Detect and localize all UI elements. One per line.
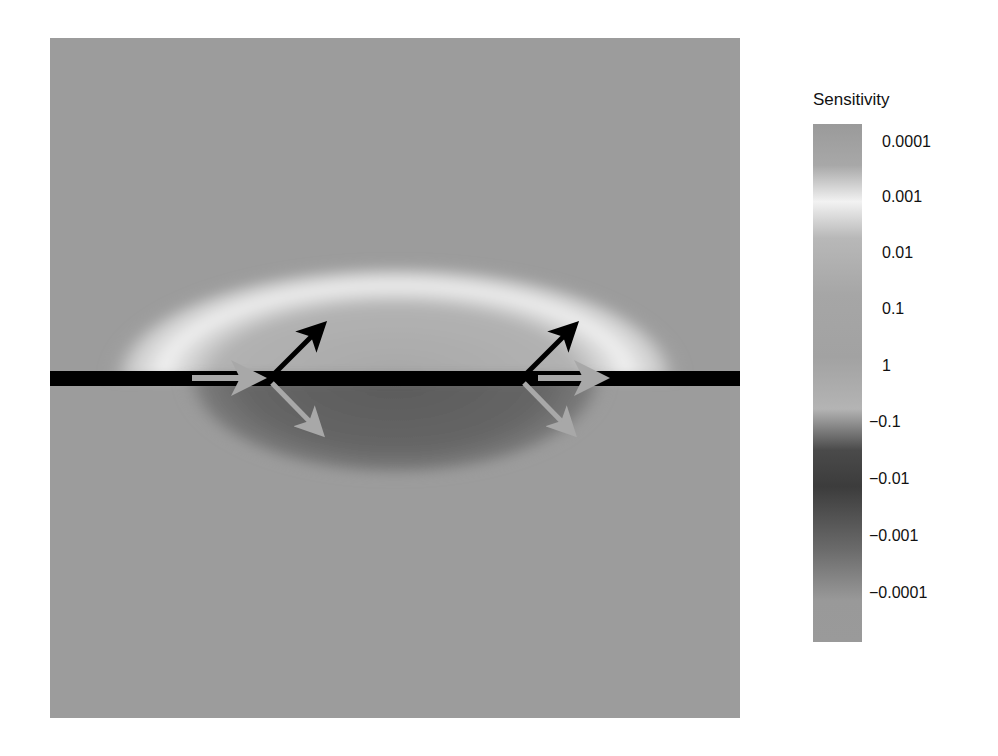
colorbar-tick: −0.01 bbox=[869, 470, 909, 488]
path-line bbox=[50, 371, 740, 386]
colorbar bbox=[813, 124, 862, 642]
sensitivity-heatmap bbox=[50, 38, 740, 718]
colorbar-tick: 0.01 bbox=[882, 244, 913, 262]
colorbar-tick: 1 bbox=[882, 357, 891, 375]
colorbar-tick: −0.0001 bbox=[869, 584, 927, 602]
colorbar-tick: −0.1 bbox=[869, 413, 901, 431]
colorbar-tick: −0.001 bbox=[869, 527, 918, 545]
colorbar-title: Sensitivity bbox=[813, 90, 890, 110]
colorbar-tick: 0.001 bbox=[882, 188, 922, 206]
colorbar-tick: 0.1 bbox=[882, 300, 904, 318]
colorbar-tick: 0.0001 bbox=[882, 133, 931, 151]
